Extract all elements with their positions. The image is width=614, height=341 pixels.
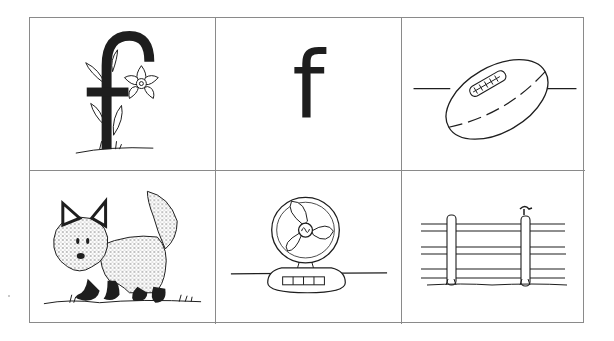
card-fox [30, 171, 216, 324]
fox-icon [30, 171, 215, 324]
card-fan [216, 171, 402, 324]
fan-icon [216, 171, 401, 324]
flower-letter-f-icon [30, 18, 215, 170]
picture-card-grid: f [29, 17, 584, 323]
card-flower-f [30, 18, 216, 171]
scan-speck [8, 295, 10, 297]
football-icon [402, 18, 585, 170]
fence-icon [402, 171, 585, 324]
card-football [402, 18, 585, 171]
letter-f: f [216, 32, 401, 142]
card-letter-f: f [216, 18, 402, 171]
card-fence [402, 171, 585, 324]
